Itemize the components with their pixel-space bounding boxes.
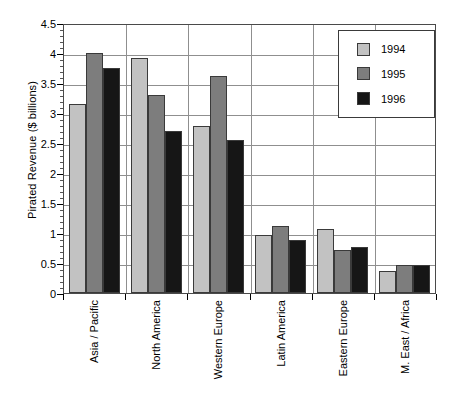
y-axis-tick-label: 3 (20, 108, 56, 120)
bars (64, 25, 126, 293)
x-axis-label-slot: North America (125, 300, 187, 415)
y-axis-tick-label: 0 (20, 288, 56, 300)
legend-label: 1994 (381, 43, 405, 55)
legend-swatch-icon (357, 43, 370, 56)
x-axis-category-labels: Asia / PacificNorth AmericaWestern Europ… (63, 300, 436, 415)
x-axis-label: Latin America (275, 300, 287, 367)
bar-1996[interactable] (103, 68, 120, 293)
bars (188, 25, 250, 293)
x-axis-label: Eastern Europe (337, 300, 349, 376)
bar-1996[interactable] (227, 140, 244, 293)
bar-group (188, 25, 250, 293)
x-axis-label: M. East / Africa (399, 300, 411, 374)
bar-1994[interactable] (69, 104, 86, 293)
y-axis-tick-label: 0.5 (20, 258, 56, 270)
legend-label: 1995 (381, 68, 405, 80)
bar-1996[interactable] (289, 240, 306, 293)
bar-1994[interactable] (255, 235, 272, 293)
bars (126, 25, 188, 293)
legend-label: 1996 (381, 93, 405, 105)
y-axis-tick-label: 2.5 (20, 138, 56, 150)
x-axis-label: Asia / Pacific (88, 300, 100, 363)
legend-item[interactable]: 1996 (357, 92, 434, 105)
y-axis-tick-label: 3.5 (20, 78, 56, 90)
x-axis-label: North America (150, 300, 162, 370)
legend-item[interactable]: 1994 (357, 43, 434, 56)
y-axis-tick-labels: 00.511.522.533.544.5 (20, 24, 56, 294)
legend-swatch-icon (357, 92, 370, 105)
y-axis-tick-label: 4 (20, 48, 56, 60)
bar-group (64, 25, 126, 293)
legend-item[interactable]: 1995 (357, 67, 434, 80)
bar-1995[interactable] (210, 76, 227, 293)
bars (249, 25, 311, 293)
bar-chart: Pirated Revenue ($ billions) 00.511.522.… (0, 0, 455, 419)
bar-1995[interactable] (86, 53, 103, 293)
x-axis-label-slot: Asia / Pacific (63, 300, 125, 415)
legend-swatch-icon (357, 67, 370, 80)
bar-1995[interactable] (396, 265, 413, 293)
x-axis-label-slot: Latin America (250, 300, 312, 415)
legend: 199419951996 (338, 30, 435, 118)
bar-group (249, 25, 311, 293)
bar-1994[interactable] (131, 58, 148, 293)
bar-1994[interactable] (317, 229, 334, 293)
bar-1995[interactable] (334, 250, 351, 293)
y-axis-tick-label: 4.5 (20, 18, 56, 30)
bar-1994[interactable] (379, 271, 396, 293)
bar-1995[interactable] (148, 95, 165, 293)
bar-1994[interactable] (193, 126, 210, 293)
bar-1996[interactable] (413, 265, 430, 293)
y-axis-tick-label: 1 (20, 228, 56, 240)
bar-1996[interactable] (351, 247, 368, 293)
bar-1996[interactable] (165, 131, 182, 293)
bar-1995[interactable] (272, 226, 289, 293)
x-axis-tick (436, 294, 437, 300)
x-axis-label: Western Europe (212, 300, 224, 379)
x-axis-label-slot: Eastern Europe (312, 300, 374, 415)
y-axis-tick-label: 2 (20, 168, 56, 180)
bar-group (126, 25, 188, 293)
x-axis-label-slot: Western Europe (187, 300, 249, 415)
x-axis-label-slot: M. East / Africa (374, 300, 436, 415)
y-axis-tick-label: 1.5 (20, 198, 56, 210)
